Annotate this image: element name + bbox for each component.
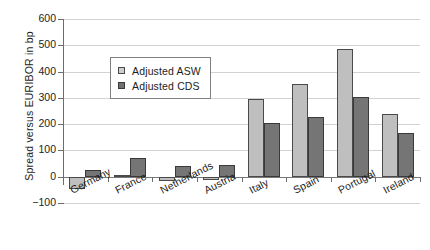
- y-axis-tick-label: 500: [8, 39, 56, 50]
- y-axis-tick-label: 200: [8, 118, 56, 129]
- bar: [382, 114, 398, 177]
- chart-legend: Adjusted ASW Adjusted CDS: [110, 57, 211, 99]
- x-axis-tick: [152, 177, 153, 182]
- bar: [353, 97, 369, 177]
- x-axis-tick: [286, 177, 287, 182]
- bar: [248, 99, 264, 177]
- light-square-icon: [118, 67, 125, 74]
- legend-item-adjusted-asw: Adjusted ASW: [118, 63, 201, 78]
- bar: [264, 123, 280, 177]
- x-axis-tick: [63, 177, 64, 182]
- legend-label: Adjusted ASW: [132, 65, 201, 77]
- y-axis-tick-label: 0: [8, 171, 56, 182]
- bar-chart: Spread versus EURIBOR in bp 600500400300…: [0, 0, 430, 250]
- x-axis-tick: [420, 177, 421, 182]
- legend-item-adjusted-cds: Adjusted CDS: [118, 78, 201, 93]
- dark-square-icon: [118, 82, 125, 89]
- legend-label: Adjusted CDS: [132, 80, 200, 92]
- x-axis-tick: [242, 177, 243, 182]
- y-axis-tick-label: 600: [8, 13, 56, 24]
- y-axis-tick-label: 400: [8, 66, 56, 77]
- bar: [337, 49, 353, 176]
- bar: [292, 84, 308, 177]
- bar: [398, 133, 414, 177]
- y-axis-tick-label: 100: [8, 144, 56, 155]
- y-axis-tick-label: −100: [8, 197, 56, 208]
- y-axis-tick-label: 300: [8, 92, 56, 103]
- x-axis-tick: [331, 177, 332, 182]
- bar: [308, 117, 324, 177]
